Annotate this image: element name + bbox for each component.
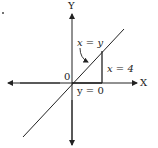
label-y-equals-0: y = 0 <box>77 86 104 96</box>
origin-label: 0 <box>64 72 70 82</box>
label-x-equals-y: x = y <box>77 38 103 48</box>
y-axis-label: Y <box>68 1 75 11</box>
pointer-arrow <box>80 48 88 62</box>
label-x-equals-4: x = 4 <box>107 64 134 74</box>
dot-mark <box>2 12 4 14</box>
x-axis-label: X <box>140 78 147 88</box>
diagram-canvas <box>0 0 158 148</box>
